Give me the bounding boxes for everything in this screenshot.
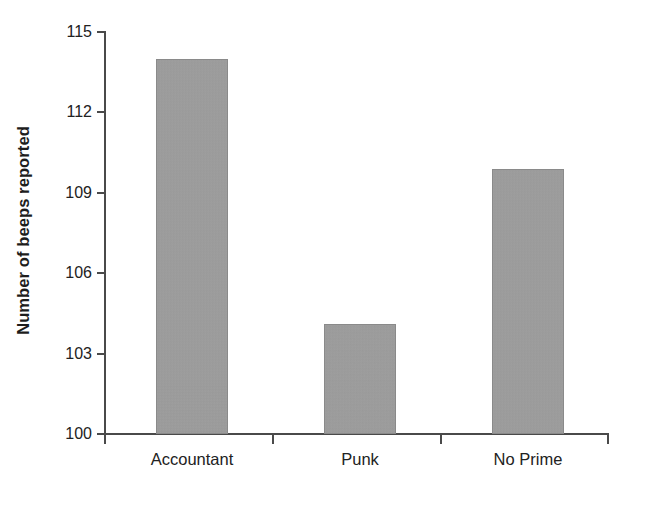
y-axis-title-label: Number of beeps reported: [14, 126, 33, 335]
x-axis-tick-2: [440, 435, 442, 444]
y-axis-tick-label-109: 109: [32, 184, 105, 202]
x-axis-tick-1: [272, 435, 274, 444]
y-axis-tick-label-103: 103: [32, 345, 105, 363]
y-axis-title: Number of beeps reported: [0, 0, 46, 460]
bar-punk: [324, 324, 396, 434]
bar-accountant: [156, 59, 228, 434]
y-axis-tick-label-100: 100: [32, 425, 105, 443]
y-axis-tick-label-112: 112: [32, 103, 105, 121]
y-axis-tick-label-115: 115: [32, 23, 105, 41]
bar-no-prime: [492, 169, 564, 434]
x-axis-label-no-prime: No Prime: [494, 450, 563, 469]
bar-chart-figure: Number of beeps reported 100103106109112…: [0, 0, 651, 506]
x-axis-label-accountant: Accountant: [151, 450, 234, 469]
x-axis-tick-start: [104, 435, 106, 444]
y-axis-line: [104, 31, 106, 435]
x-axis-label-punk: Punk: [341, 450, 379, 469]
y-axis-tick-label-106: 106: [32, 264, 105, 282]
x-axis-tick-end: [607, 435, 609, 444]
